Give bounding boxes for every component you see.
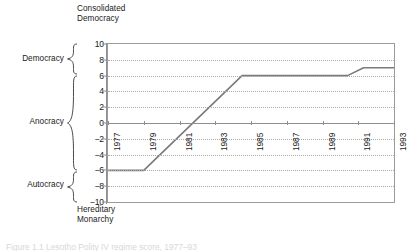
y-tick-label--10: −10 (76, 197, 104, 207)
y-tick-mark-10 (102, 44, 107, 45)
y-tick-mark-4 (102, 91, 107, 92)
y-tick-label-2: 2 (76, 102, 104, 112)
y-tick-label--8: −8 (76, 181, 104, 191)
x-tick-label-1983: 1983 (219, 133, 229, 151)
x-tick-label-1981: 1981 (184, 133, 194, 151)
x-tick-label-1989: 1989 (327, 133, 337, 151)
y-tick-label--4: −4 (76, 150, 104, 160)
y-tick-mark--10 (102, 202, 107, 203)
x-tick-label-1979: 1979 (148, 133, 158, 151)
y-tick-mark-2 (102, 107, 107, 108)
x-tick-label-1977: 1977 (112, 133, 122, 151)
y-tick-label-4: 4 (76, 86, 104, 96)
x-tick-label-1987: 1987 (291, 133, 301, 151)
figure-caption: Figure 1.1 Lesotho Polity IV regime scor… (6, 242, 406, 251)
y-tick-label-0: 0 (76, 118, 104, 128)
y-tick-mark-6 (102, 75, 107, 76)
regime-band-label-autocracy: Autocracy (0, 180, 64, 189)
regime-band-label-democracy: Democracy (0, 54, 64, 63)
y-tick-mark--8 (102, 186, 107, 187)
y-tick-mark-0 (102, 123, 107, 124)
y-axis-tick-labels: 1086420−2−4−6−8−10 (74, 0, 104, 251)
x-axis-tick-labels: 197719791981198319851987198919911993 (107, 43, 395, 203)
y-tick-label-8: 8 (76, 55, 104, 65)
x-tick-label-1991: 1991 (362, 133, 372, 151)
y-tick-label-10: 10 (76, 39, 104, 49)
regime-score-figure: Consolidated Democracy Hereditary Monarc… (0, 0, 409, 251)
x-tick-label-1993: 1993 (398, 133, 408, 151)
y-tick-label--2: −2 (76, 134, 104, 144)
regime-band-label-anocracy: Anocracy (0, 117, 64, 126)
y-tick-label--6: −6 (76, 165, 104, 175)
y-tick-mark-8 (102, 59, 107, 60)
y-tick-mark--2 (102, 138, 107, 139)
x-tick-label-1985: 1985 (255, 133, 265, 151)
y-tick-mark--4 (102, 154, 107, 155)
y-tick-mark--6 (102, 170, 107, 171)
y-tick-label-6: 6 (76, 71, 104, 81)
